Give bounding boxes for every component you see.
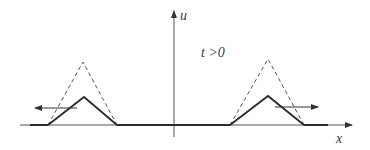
u-axis-label: u [180, 8, 187, 23]
time-annotation: t >0 [201, 45, 225, 60]
wave-diagram: u x t >0 [0, 0, 370, 150]
x-axis-label: x [335, 131, 343, 146]
right-solid-triangle [230, 96, 304, 125]
left-solid-triangle [48, 97, 117, 125]
